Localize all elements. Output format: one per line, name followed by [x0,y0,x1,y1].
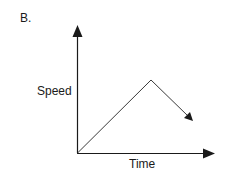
speed-time-graph [0,0,228,182]
y-axis-arrowhead-icon [73,25,83,37]
speed-line [78,80,189,153]
x-axis-arrowhead-icon [203,149,215,159]
